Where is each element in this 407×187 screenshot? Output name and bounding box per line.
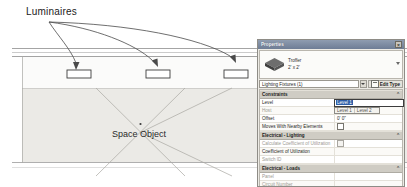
property-section-header[interactable]: Electrical - Lighting⌃	[260, 131, 402, 140]
space-object-label: Space Object	[112, 129, 166, 139]
property-row[interactable]: Calculate Coefficient of Utilization	[260, 140, 402, 148]
edit-type-icon	[371, 80, 379, 88]
luminaire-fixture-2[interactable]	[146, 70, 170, 78]
property-row[interactable]: HostLevel : Level 1	[260, 107, 402, 115]
property-value[interactable]	[334, 148, 402, 155]
property-name: Panel	[260, 174, 334, 179]
property-name: Moves With Nearby Elements	[260, 124, 334, 129]
property-value[interactable]	[334, 181, 402, 187]
properties-grid[interactable]: Constraints⌃LevelLevel 1Level 1Level 2Ho…	[259, 89, 403, 187]
level-value-editor[interactable]: Level 1	[334, 99, 404, 107]
property-value[interactable]	[334, 123, 402, 130]
property-name: Host	[260, 108, 334, 113]
palette-title-text: Properties	[261, 42, 395, 47]
property-row[interactable]: Panel	[260, 173, 402, 181]
property-row[interactable]: LevelLevel 1Level 1Level 2	[260, 99, 402, 107]
property-name: Level	[260, 100, 334, 105]
section-collapse-icon[interactable]: ⌃	[396, 166, 400, 171]
type-family-name: Troffer	[288, 58, 301, 64]
property-row[interactable]: Coefficient of Utilization	[260, 148, 402, 156]
palette-title-bar[interactable]: Properties ×	[258, 40, 404, 49]
property-section-label: Electrical - Lighting	[262, 133, 305, 138]
edit-type-button[interactable]: Edit Type	[368, 80, 403, 88]
property-value[interactable]	[334, 173, 402, 180]
luminaire-fixture-3[interactable]	[224, 70, 248, 78]
level-selected-value: Level 1	[336, 100, 353, 105]
level-dropdown-option[interactable]: Level 1	[335, 108, 354, 113]
property-checkbox[interactable]	[337, 140, 344, 147]
type-preview-text: Troffer 2' x 2'	[288, 58, 301, 70]
level-dropdown-option[interactable]: Level 2	[354, 108, 374, 113]
property-name: Offset	[260, 116, 334, 121]
property-row[interactable]: Circuit Number	[260, 181, 402, 187]
type-selector-combobox[interactable]: Lighting Fixtures (1)	[259, 80, 359, 88]
property-row[interactable]: Offset0' 0"	[260, 115, 402, 123]
property-section-label: Constraints	[262, 92, 288, 97]
properties-palette[interactable]: Properties × Troffer 2' x 2' Lighting Fi…	[257, 39, 405, 187]
chevron-down-icon[interactable]	[396, 62, 400, 65]
type-selector-dropdown-button[interactable]	[360, 80, 367, 88]
level-dropdown-list[interactable]: Level 1Level 2	[334, 107, 380, 114]
type-selector-row[interactable]: Lighting Fixtures (1) Edit Type	[259, 80, 403, 88]
chevron-down-icon	[361, 83, 365, 85]
close-icon[interactable]: ×	[395, 41, 402, 48]
edit-type-label: Edit Type	[380, 82, 400, 87]
property-name: Switch ID	[260, 157, 334, 162]
property-value[interactable]	[334, 140, 402, 147]
section-collapse-icon[interactable]: ⌃	[396, 92, 400, 97]
property-name: Calculate Coefficient of Utilization	[260, 141, 334, 146]
luminaire-fixture-1[interactable]	[67, 70, 91, 78]
property-row[interactable]: Switch ID	[260, 156, 402, 164]
property-value[interactable]: 0' 0"	[334, 115, 402, 122]
luminaires-annotation-label: Luminaires	[26, 6, 77, 17]
space-center-point	[139, 123, 141, 125]
property-name: Coefficient of Utilization	[260, 149, 334, 154]
property-section-label: Electrical - Loads	[262, 166, 300, 171]
property-name: Circuit Number	[260, 182, 334, 187]
property-section-header[interactable]: Electrical - Loads⌃	[260, 164, 402, 173]
troffer-3d-icon	[264, 57, 285, 72]
property-checkbox[interactable]	[337, 123, 344, 130]
section-collapse-icon[interactable]: ⌃	[396, 133, 400, 138]
screenshot-root: Luminaires Space Object Properties × Tro…	[0, 0, 407, 187]
type-size-label: 2' x 2'	[288, 65, 301, 71]
property-value[interactable]	[334, 156, 402, 163]
type-preview[interactable]: Troffer 2' x 2'	[259, 50, 403, 79]
property-row[interactable]: Moves With Nearby Elements	[260, 123, 402, 131]
